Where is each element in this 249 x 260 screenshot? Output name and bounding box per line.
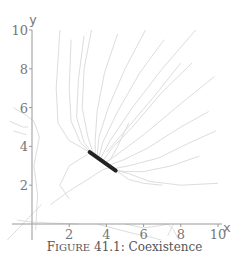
x-tick-label: 2	[65, 227, 73, 240]
caption-number: 41.1:	[94, 240, 125, 254]
trajectory-curve	[60, 154, 88, 199]
x-axis-label: x	[223, 220, 231, 235]
trajectory-curve	[10, 121, 29, 127]
phase-portrait-plot: 246810 246810 x y	[0, 0, 249, 240]
trajectory-curve	[118, 171, 218, 186]
caption-prefix-small: IGURE	[55, 242, 90, 253]
trajectory-curve	[106, 77, 214, 162]
trajectory-curve	[106, 63, 180, 152]
x-tick-label: 6	[139, 227, 147, 240]
trajectory-curve	[82, 30, 93, 154]
caption-prefix-cap: F	[47, 240, 55, 254]
trajectory-curve	[168, 224, 174, 236]
x-ticks: 246810	[65, 224, 226, 240]
trajectory-curve	[104, 63, 192, 160]
y-tick-label: 2	[20, 178, 28, 193]
trajectory-layer	[4, 30, 218, 240]
x-tick-label: 8	[177, 227, 185, 240]
trajectory-curve	[97, 30, 145, 156]
axes	[12, 30, 222, 240]
trajectory-curve	[101, 30, 196, 158]
y-tick-label: 8	[20, 62, 28, 77]
trajectory-curve	[13, 108, 39, 230]
y-axis-label: y	[29, 12, 37, 27]
y-tick-label: 6	[20, 101, 28, 116]
y-tick-label: 10	[11, 23, 28, 38]
caption-title: Coexistence	[129, 240, 203, 254]
x-tick-label: 4	[102, 227, 110, 240]
trajectory-curve	[118, 172, 163, 186]
trajectory-curve	[56, 30, 89, 152]
trajectory-curve	[13, 131, 26, 135]
figure-caption: FIGURE 41.1: Coexistence	[0, 240, 249, 254]
trajectory-curve	[77, 36, 94, 154]
y-tick-label: 4	[20, 139, 28, 154]
